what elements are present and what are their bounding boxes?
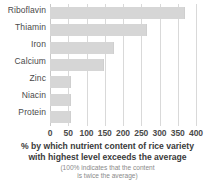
category-label-protein: Protein [0, 106, 46, 118]
bar-protein [50, 111, 71, 123]
x-tick-200: 200 [116, 128, 130, 139]
bar-calcium [50, 59, 104, 71]
caption-note-2: is twice the average) [0, 172, 215, 180]
x-tick-350: 350 [171, 128, 185, 139]
x-tick-400: 400 [189, 128, 203, 139]
chart-caption: % by which nutrient content of rice vari… [0, 141, 215, 180]
category-label-zinc: Zinc [0, 72, 46, 84]
table-row [50, 42, 114, 54]
x-tick-300: 300 [152, 128, 166, 139]
category-label-calcium: Calcium [0, 55, 46, 67]
caption-line-1: % by which nutrient content of rice vari… [0, 141, 215, 152]
x-tick-0: 0 [48, 128, 53, 139]
category-label-riboflavin: Riboflavin [0, 4, 46, 16]
gridline-400 [196, 4, 197, 126]
bar-iron [50, 42, 114, 54]
bar-zinc [50, 76, 71, 88]
bar-thiamin [50, 24, 147, 36]
table-row [50, 59, 104, 71]
bar-niacin [50, 94, 71, 106]
table-row [50, 94, 71, 106]
caption-note-1: (100% indicates that the content [0, 164, 215, 172]
category-label-iron: Iron [0, 38, 46, 50]
category-axis: Riboflavin Thiamin Iron Calcium Zinc Nia… [0, 4, 46, 126]
category-label-niacin: Niacin [0, 89, 46, 101]
bar-riboflavin [50, 7, 185, 19]
x-tick-100: 100 [79, 128, 93, 139]
x-tick-50: 50 [64, 128, 73, 139]
x-axis-tick-labels: 050100150200250300350400 [50, 128, 196, 140]
table-row [50, 24, 147, 36]
table-row [50, 76, 71, 88]
table-row [50, 7, 185, 19]
bar-chart: Riboflavin Thiamin Iron Calcium Zinc Nia… [0, 0, 215, 195]
x-tick-150: 150 [98, 128, 112, 139]
caption-line-2: with highest level exceeds the average [0, 152, 215, 163]
bar-series [50, 4, 196, 126]
x-tick-250: 250 [134, 128, 148, 139]
table-row [50, 111, 71, 123]
category-label-thiamin: Thiamin [0, 21, 46, 33]
plot-area [50, 4, 196, 126]
